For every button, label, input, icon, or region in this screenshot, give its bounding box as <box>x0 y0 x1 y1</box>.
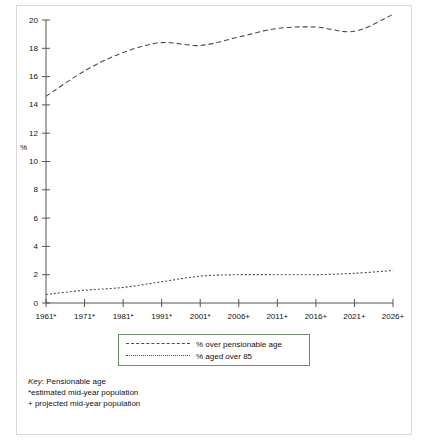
plot-svg <box>0 0 425 330</box>
x-axis-tick-label: 2026+ <box>371 312 415 321</box>
x-axis-tick-label: 2001* <box>178 312 222 321</box>
y-axis-tick-label: 20 <box>12 16 38 25</box>
x-axis-tick-label: 2016+ <box>294 312 338 321</box>
y-axis-tick-label: 16 <box>12 72 38 81</box>
y-axis-unit-label: % <box>20 143 27 152</box>
y-axis-tick-label: 6 <box>12 214 38 223</box>
y-axis-tick-label: 10 <box>12 157 38 166</box>
y-axis-tick-label: 14 <box>12 100 38 109</box>
legend-item-aged-over-85: % aged over 85 <box>126 350 252 362</box>
x-axis-tick-label: 2006+ <box>217 312 261 321</box>
series-line-over-pensionable-age <box>46 14 393 96</box>
chart-footnotes: Key: Pensionable age *estimated mid-year… <box>28 376 368 409</box>
y-axis-tick-label: 12 <box>12 129 38 138</box>
x-axis-tick-label: 1971* <box>63 312 107 321</box>
x-axis-tick-label: 2011+ <box>255 312 299 321</box>
y-axis-tick-label: 18 <box>12 44 38 53</box>
series-line-aged-over-85 <box>46 270 393 294</box>
x-axis-tick-label: 1961* <box>24 312 68 321</box>
legend-label-over-pensionable-age: % over pensionable age <box>196 340 282 349</box>
x-axis-tick-label: 2021+ <box>332 312 376 321</box>
footnote-estimated: *estimated mid-year population <box>28 387 368 398</box>
legend-dashed-line-icon <box>126 343 190 345</box>
population-projection-chart: 02468101214161820 1961*1971*1981*1991*20… <box>0 0 425 330</box>
y-axis-tick-label: 4 <box>12 242 38 251</box>
y-axis-tick-label: 0 <box>12 299 38 308</box>
legend-dotted-line-icon <box>126 355 190 357</box>
y-axis-tick-label: 2 <box>12 270 38 279</box>
y-axis-tick-label: 8 <box>12 185 38 194</box>
footnote-projected: + projected mid-year population <box>28 398 368 409</box>
chart-legend: % over pensionable age % aged over 85 <box>118 334 310 366</box>
x-axis-tick-label: 1991* <box>140 312 184 321</box>
x-axis-tick-label: 1981* <box>101 312 145 321</box>
footnote-key: Key: Pensionable age <box>28 376 368 387</box>
footnote-key-text: : Pensionable age <box>42 377 106 386</box>
legend-item-over-pensionable-age: % over pensionable age <box>126 338 282 350</box>
footnote-key-word: Key <box>28 377 42 386</box>
legend-label-aged-over-85: % aged over 85 <box>196 352 252 361</box>
